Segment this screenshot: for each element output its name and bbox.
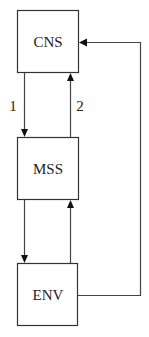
edge-label-2: 2 [76, 98, 84, 114]
edge-mss-to-cns: 2 [67, 73, 84, 137]
arrow-up-icon [67, 73, 74, 81]
edge-cns-to-mss: 1 [9, 73, 28, 137]
node-mss-label: MSS [33, 161, 63, 177]
edge-label-1: 1 [9, 98, 17, 114]
edge-env-to-mss [67, 200, 74, 263]
node-cns: CNS [18, 11, 79, 73]
edge-env-to-cns [78, 39, 141, 296]
arrow-down-icon [21, 129, 28, 137]
node-env-label: ENV [33, 287, 64, 303]
arrow-up-icon [67, 200, 74, 208]
edge-mss-to-env [21, 200, 28, 263]
node-cns-label: CNS [33, 34, 62, 50]
node-mss: MSS [18, 138, 79, 200]
arrow-left-icon [79, 39, 87, 47]
arrow-down-icon [21, 255, 28, 263]
node-env: ENV [18, 264, 78, 326]
feedback-diagram: CNS MSS ENV 1 2 [0, 0, 149, 337]
